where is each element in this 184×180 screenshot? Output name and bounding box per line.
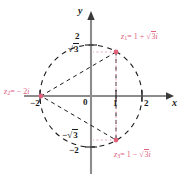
point-z3[interactable] [114,138,119,143]
z3-radicand: 3 [144,150,149,159]
y-tick-label-minus-sqrt3: −√3 [62,131,78,140]
x-tick-label-1: 1 [113,99,118,108]
z1-expression: = 1 + [127,32,146,41]
radical-overbar [144,149,149,150]
y-tick-label-minus2: −2 [69,146,79,155]
z3-expression: = 1 − [120,150,139,159]
point-z1[interactable] [114,50,119,55]
y-axis-label: y [78,6,82,16]
minus2-digit: 2 [74,145,79,155]
origin-label: 0 [83,98,88,107]
z2-imaginary-unit: i [27,87,29,96]
label-z3: z3= 1 − √3i [114,151,151,159]
sqrt3-radicand-bottom: 3 [72,130,78,140]
x-tick-label-2: 2 [144,99,149,108]
y-axis-arrow [87,11,94,20]
z1-radicand: 3 [151,32,156,41]
label-z1: z1= 1 + √3i [121,33,158,41]
x-axis-label: x [172,98,177,108]
radical-overbar [72,129,78,130]
y-tick-label-2: 2 [75,32,80,41]
sqrt3-radicand-top: 3 [73,44,79,54]
y-tick-label-sqrt3: √3 [68,45,79,54]
label-z2: z2= − 2i [4,88,29,96]
z2-expression: = − 2 [10,87,27,96]
radical-overbar [151,31,156,32]
x-tick-label-minus2: −2 [30,99,40,108]
radical-overbar [73,43,79,44]
